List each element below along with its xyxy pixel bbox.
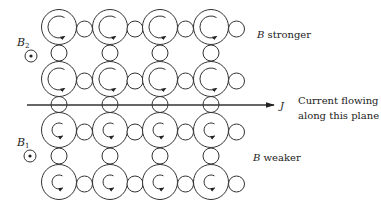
- small-idler-circle: [127, 124, 143, 140]
- small-idler-circle: [152, 148, 168, 164]
- small-idler-circle: [51, 148, 67, 164]
- small-idler-circle: [77, 73, 93, 89]
- vortex-circle: [42, 165, 77, 200]
- vortex-circle: [194, 165, 229, 200]
- vortex-circle: [194, 10, 229, 45]
- small-idler-circle: [77, 176, 93, 192]
- b2-label: B2: [16, 36, 30, 50]
- small-idler-circle: [229, 73, 245, 89]
- small-idler-circle: [229, 21, 245, 37]
- small-idler-circle: [203, 148, 219, 164]
- b2-field-out-of-page-icon: [25, 50, 37, 62]
- small-idler-circle: [77, 21, 93, 37]
- small-idler-circle: [77, 124, 93, 140]
- current-description-line2: along this plane: [298, 110, 379, 121]
- vortex-circle: [93, 62, 128, 97]
- b1-label: B1: [16, 136, 30, 150]
- vortex-circle: [194, 62, 229, 97]
- b-stronger-label: B stronger: [256, 29, 311, 40]
- small-idler-circle: [127, 176, 143, 192]
- current-description-line1: Current flowing: [298, 95, 379, 106]
- small-idler-circle: [229, 176, 245, 192]
- small-idler-circle: [127, 21, 143, 37]
- vortex-circle: [42, 113, 77, 148]
- vortex-circle: [143, 62, 178, 97]
- b-weaker-label: B weaker: [252, 152, 301, 163]
- current-j-label: J: [278, 100, 285, 111]
- vortex-circle: [93, 165, 128, 200]
- vortex-circle: [143, 113, 178, 148]
- small-idler-circle: [51, 45, 67, 61]
- small-idler-circle: [127, 73, 143, 89]
- b1-field-out-of-page-icon: [24, 150, 36, 162]
- vortex-circle: [143, 10, 178, 45]
- small-idler-circle: [178, 124, 194, 140]
- vortex-circle: [194, 113, 229, 148]
- small-idler-circle: [102, 45, 118, 61]
- small-idler-circle: [152, 45, 168, 61]
- small-idler-circle: [178, 176, 194, 192]
- small-idler-circle: [178, 21, 194, 37]
- small-idler-circle: [102, 148, 118, 164]
- small-idler-circle: [178, 73, 194, 89]
- vortex-circle: [42, 62, 77, 97]
- small-idler-circle: [203, 45, 219, 61]
- vortex-diagram: B2 B1 B stronger B weaker J Current flow…: [0, 0, 381, 212]
- vortex-circle: [42, 10, 77, 45]
- small-idler-circle: [229, 124, 245, 140]
- vortex-circle: [93, 10, 128, 45]
- vortex-circle: [93, 113, 128, 148]
- vortex-circle: [143, 165, 178, 200]
